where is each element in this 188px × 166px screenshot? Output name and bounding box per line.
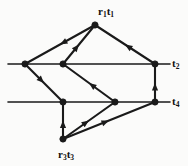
vertex-label-r1t1-sub2: 1 xyxy=(110,10,114,19)
vertex-label-r3t3: r3t3 xyxy=(58,149,74,160)
vertex-A xyxy=(22,61,28,67)
vertex-F xyxy=(152,99,158,105)
graph-diagram-figure: r1t1 r3t3 t2 t4 xyxy=(0,0,188,166)
vertex-r3t3 xyxy=(60,136,66,142)
line-label-t4-sub: 4 xyxy=(176,100,180,109)
vertex-D xyxy=(112,99,118,105)
vertex-label-r1t1: r1t1 xyxy=(98,6,114,17)
vertex-r1t1 xyxy=(92,22,98,28)
vertex-B xyxy=(60,61,66,67)
arrowhead-r3t3-to-F xyxy=(101,120,109,126)
line-label-t2: t2 xyxy=(172,58,179,69)
graph-canvas xyxy=(0,0,188,166)
vertex-label-r3t3-sub2: 3 xyxy=(70,153,74,162)
line-label-t2-sub: 2 xyxy=(176,62,180,71)
arrowhead-F-to-E xyxy=(152,83,158,91)
vertex-label-r3t3-sub1: 3 xyxy=(63,153,67,162)
vertex-C xyxy=(60,99,66,105)
line-label-t4: t4 xyxy=(172,96,179,107)
vertex-label-r1t1-sub1: 1 xyxy=(103,10,107,19)
arrowhead-r3t3-to-C xyxy=(60,121,66,129)
directed-edges-group xyxy=(25,25,158,139)
vertex-E xyxy=(152,61,158,67)
